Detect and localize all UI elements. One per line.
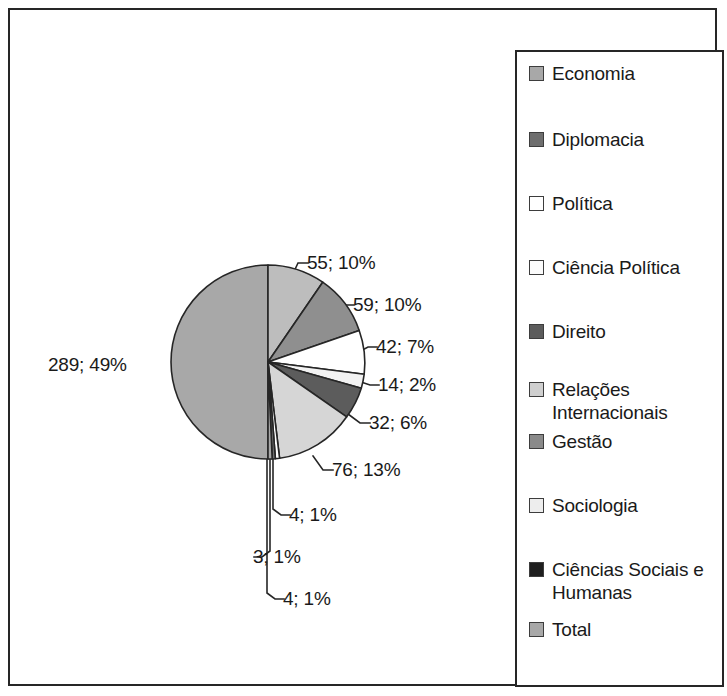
legend-swatch-icon-gestao xyxy=(529,434,544,449)
legend-swatch-icon-economia xyxy=(529,66,544,81)
legend-label-relacoes-internacionais: Relações Internacionais xyxy=(552,378,720,424)
legend-box: Economia Diplomacia Política Ciência Pol… xyxy=(515,50,724,687)
data-label-4a: 4; 1% xyxy=(289,504,337,526)
legend-item-total[interactable]: Total xyxy=(529,618,591,641)
legend-item-gestao[interactable]: Gestão xyxy=(529,430,612,453)
legend-swatch-icon-relacoes-internacionais xyxy=(529,382,544,397)
legend-swatch-icon-sociologia xyxy=(529,498,544,513)
legend-label-direito: Direito xyxy=(552,320,606,343)
legend-label-politica: Política xyxy=(552,192,613,215)
legend-item-sociologia[interactable]: Sociologia xyxy=(529,494,638,517)
data-label-289: 289; 49% xyxy=(48,354,127,376)
legend-label-ciencia-politica: Ciência Política xyxy=(552,256,680,279)
figure-border: 55; 10% 59; 10% 42; 7% 14; 2% 32; 6% 76;… xyxy=(8,8,717,686)
legend-swatch-icon-total xyxy=(529,622,544,637)
data-label-55: 55; 10% xyxy=(307,252,375,274)
data-label-4b: 4; 1% xyxy=(283,588,331,610)
legend-label-economia: Economia xyxy=(552,62,635,85)
pie-slices xyxy=(171,265,365,459)
legend-item-diplomacia[interactable]: Diplomacia xyxy=(529,128,644,151)
pie-graphic xyxy=(20,20,508,680)
legend-item-direito[interactable]: Direito xyxy=(529,320,606,343)
legend-label-gestao: Gestão xyxy=(552,430,612,453)
data-label-32: 32; 6% xyxy=(369,412,427,434)
legend-swatch-icon-direito xyxy=(529,324,544,339)
pie-chart-figure: 55; 10% 59; 10% 42; 7% 14; 2% 32; 6% 76;… xyxy=(0,0,727,696)
legend-label-total: Total xyxy=(552,618,591,641)
legend-label-sociologia: Sociologia xyxy=(552,494,638,517)
data-label-59: 59; 10% xyxy=(353,294,421,316)
plot-area: 55; 10% 59; 10% 42; 7% 14; 2% 32; 6% 76;… xyxy=(20,20,508,680)
legend-item-economia[interactable]: Economia xyxy=(529,62,635,85)
data-label-14: 14; 2% xyxy=(378,374,436,396)
legend-swatch-icon-ciencia-politica xyxy=(529,260,544,275)
legend-item-relacoes-internacionais[interactable]: Relações Internacionais xyxy=(529,378,720,424)
legend-swatch-icon-ciencias-sociais-e-humanas xyxy=(529,562,544,577)
pie-slice-economia xyxy=(171,265,268,459)
legend-swatch-icon-diplomacia xyxy=(529,132,544,147)
legend-item-ciencia-politica[interactable]: Ciência Política xyxy=(529,256,680,279)
data-label-42: 42; 7% xyxy=(376,336,434,358)
legend-list: Economia Diplomacia Política Ciência Pol… xyxy=(517,52,722,685)
legend-swatch-icon-politica xyxy=(529,196,544,211)
legend-item-politica[interactable]: Política xyxy=(529,192,613,215)
legend-label-diplomacia: Diplomacia xyxy=(552,128,644,151)
legend-item-ciencias-sociais-e-humanas[interactable]: Ciências Sociais e Humanas xyxy=(529,558,720,604)
data-label-76: 76; 13% xyxy=(332,459,400,481)
legend-label-ciencias-sociais-e-humanas: Ciências Sociais e Humanas xyxy=(552,558,720,604)
data-label-3: 3; 1% xyxy=(253,546,301,568)
